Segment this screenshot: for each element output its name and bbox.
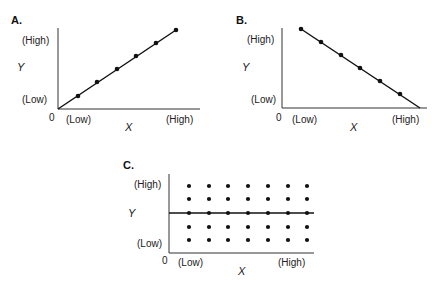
panel-a-x-high: (High) — [166, 114, 193, 125]
panel-a-y-label: Y — [17, 61, 25, 73]
panel-b-y-high: (High) — [247, 34, 274, 45]
panel-c-y-high: (High) — [134, 179, 161, 190]
panel-a-title: A. — [11, 14, 22, 26]
panel-b: B. (High) Y (Low) 0 (Low) X (High) — [236, 14, 427, 133]
panel-c-origin: 0 — [162, 255, 168, 266]
panel-a-y-low: (Low) — [22, 94, 47, 105]
panel-b-y-low: (Low) — [251, 94, 276, 105]
panel-c-x-high: (High) — [278, 257, 305, 268]
panel-b-title: B. — [236, 14, 247, 26]
scatter-diagrams: A. (High) Y (Low) 0 (Low) X (High) B. (H… — [0, 0, 439, 286]
panel-b-y-label: Y — [242, 61, 250, 73]
panel-c-x-low: (Low) — [178, 257, 203, 268]
panel-b-x-label: X — [349, 121, 358, 133]
panel-c-y-low: (Low) — [137, 238, 162, 249]
panel-a-x-low: (Low) — [66, 114, 91, 125]
panel-c-y-label: Y — [128, 207, 136, 219]
panel-a: A. (High) Y (Low) 0 (Low) X (High) — [11, 14, 200, 133]
panel-a-origin: 0 — [49, 112, 55, 123]
panel-c-title: C. — [123, 159, 134, 171]
panel-c-x-label: X — [237, 265, 246, 277]
panel-c: C. (High) Y (Low) 0 (Low) X (High) — [123, 159, 314, 277]
panel-b-x-high: (High) — [392, 114, 419, 125]
panel-b-x-low: (Low) — [292, 114, 317, 125]
panel-a-y-high: (High) — [22, 35, 49, 46]
panel-b-origin: 0 — [276, 112, 282, 123]
panel-a-x-label: X — [124, 121, 133, 133]
